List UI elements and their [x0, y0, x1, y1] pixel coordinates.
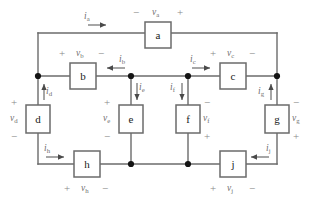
component-e-label: e — [129, 113, 134, 125]
current-label-ij: ij — [266, 144, 271, 154]
polarity-va-minus: − — [133, 7, 139, 18]
current-label-ib: ib — [119, 55, 125, 65]
component-a-label: a — [156, 29, 161, 41]
component-j-label: j — [230, 158, 234, 170]
arrow-ie-head — [134, 94, 139, 100]
voltage-label-ve: ve — [103, 114, 110, 124]
arrow-ig-head — [268, 84, 273, 90]
polarity-vh-minus: − — [102, 183, 108, 194]
arrow-ih-head — [58, 154, 64, 159]
component-g-label: g — [274, 113, 280, 125]
component-h-label: h — [84, 158, 90, 170]
circuit-schematic-svg: a b c d e f g h j — [0, 0, 315, 202]
circuit-diagram: a b c d e f g h j ia ib ic id ie if ig i… — [0, 0, 315, 202]
component-c-label: c — [231, 70, 236, 82]
node-e-bottom-dot — [128, 161, 134, 167]
voltage-label-vc: vc — [227, 49, 234, 59]
arrow-ib-head — [107, 65, 113, 70]
polarity-vc-plus: + — [210, 48, 216, 59]
component-d-label: d — [35, 113, 41, 125]
arrow-ia-head — [100, 22, 106, 27]
current-label-if: if — [170, 83, 175, 93]
polarity-vg-plus: + — [293, 131, 299, 142]
polarity-vg-minus: − — [293, 97, 299, 108]
voltage-label-vg: vg — [292, 114, 300, 124]
current-label-ic: ic — [190, 55, 196, 65]
voltage-label-vh: vh — [81, 184, 89, 194]
wire-group — [38, 33, 277, 164]
current-label-ig: ig — [258, 87, 264, 97]
arrow-ic-head — [204, 65, 210, 70]
arrow-if-head — [179, 94, 184, 100]
current-label-ia: ia — [84, 12, 90, 22]
voltage-label-vf: vf — [203, 114, 209, 124]
polarity-vh-plus: + — [64, 183, 70, 194]
polarity-vb-minus: − — [98, 48, 104, 59]
polarity-ve-plus: + — [104, 97, 110, 108]
polarity-vf-minus: − — [204, 97, 210, 108]
current-label-ih: ih — [44, 144, 50, 154]
component-f-label: f — [186, 113, 190, 125]
voltage-label-vj: vj — [227, 184, 233, 194]
node-left-mid-dot — [35, 73, 41, 79]
node-f-bottom-dot — [185, 161, 191, 167]
polarity-vb-plus: + — [59, 48, 65, 59]
voltage-label-vd: vd — [10, 114, 18, 124]
polarity-vj-minus: − — [249, 183, 255, 194]
voltage-label-vb: vb — [76, 49, 84, 59]
polarity-va-plus: + — [177, 7, 183, 18]
component-b-label: b — [80, 70, 86, 82]
node-f-top-dot — [185, 73, 191, 79]
polarity-vf-plus: + — [204, 131, 210, 142]
node-e-top-dot — [128, 73, 134, 79]
polarity-vc-minus: − — [249, 48, 255, 59]
voltage-label-va: va — [152, 8, 159, 18]
current-label-id: id — [46, 87, 52, 97]
polarity-vd-plus: + — [11, 97, 17, 108]
node-right-mid-dot — [274, 73, 280, 79]
arrow-ij-head — [251, 154, 257, 159]
polarity-vd-minus: − — [11, 131, 17, 142]
component-letter-group: a b c d e f g h j — [35, 29, 280, 170]
polarity-ve-minus: − — [104, 131, 110, 142]
component-group — [26, 22, 289, 177]
polarity-vj-plus: + — [210, 183, 216, 194]
current-label-ie: ie — [139, 83, 145, 93]
